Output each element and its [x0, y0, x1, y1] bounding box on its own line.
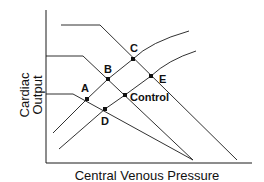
cardiac-function-curve-low [59, 51, 196, 149]
y-axis-title-line2: Output [30, 75, 45, 114]
point-e-label: E [159, 73, 166, 85]
point-a-label: A [81, 82, 89, 94]
cardiac-output-venous-return-diagram: A B C D E Control Central Venous Pressur… [0, 0, 264, 182]
venous-return-curve-mid [46, 56, 193, 160]
point-b-marker [106, 77, 110, 81]
point-c-label: C [130, 42, 138, 54]
x-axis-title: Central Venous Pressure [75, 168, 220, 182]
venous-return-curve-low [46, 94, 193, 160]
point-d-label: D [101, 115, 109, 127]
point-a-marker [85, 97, 89, 101]
point-d-marker [103, 107, 107, 111]
point-control-label: Control [130, 91, 169, 103]
point-b-label: B [104, 63, 112, 75]
point-e-marker [149, 74, 153, 78]
point-c-marker [131, 57, 135, 61]
point-control-marker [123, 93, 127, 97]
